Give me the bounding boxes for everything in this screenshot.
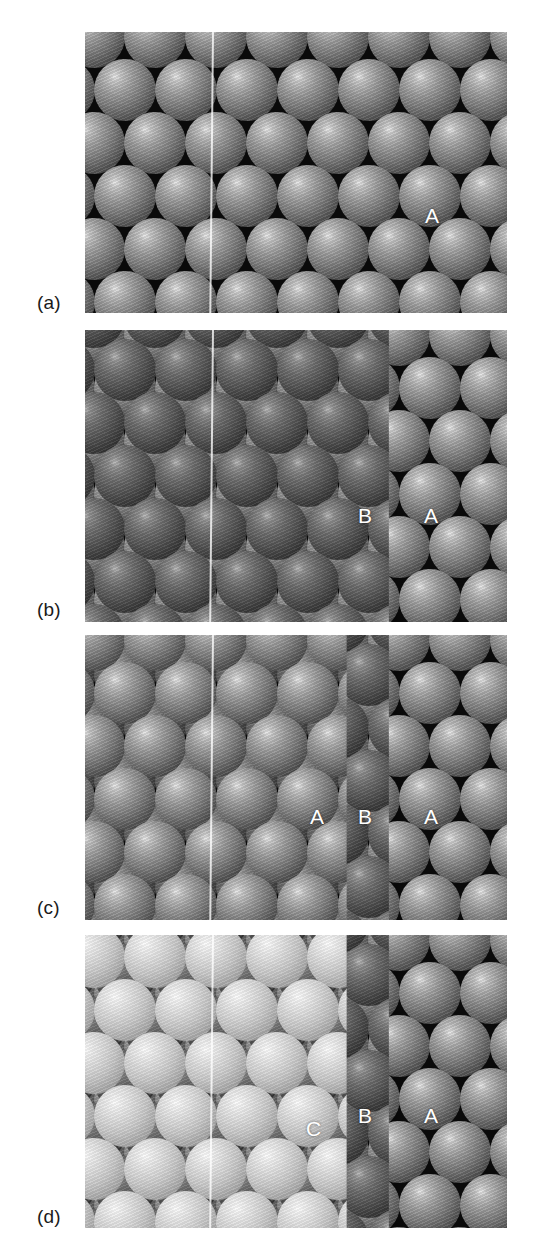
sphere <box>124 715 186 777</box>
sphere-layer-a <box>85 32 507 313</box>
sphere <box>307 392 369 454</box>
sphere <box>277 445 339 507</box>
sphere <box>246 1138 308 1200</box>
sphere <box>155 662 217 724</box>
sphere <box>155 1085 217 1147</box>
panel-label-b: (b) <box>37 600 61 619</box>
sphere <box>246 715 308 777</box>
sphere <box>399 962 461 1024</box>
panel-c <box>85 635 507 920</box>
sphere <box>399 569 461 622</box>
sphere <box>216 339 278 401</box>
sphere <box>155 551 217 613</box>
sphere <box>94 165 156 227</box>
sphere <box>124 821 186 883</box>
sphere <box>429 218 491 280</box>
sphere <box>460 662 508 724</box>
panel-d <box>85 935 507 1228</box>
sphere <box>185 1138 247 1200</box>
sphere <box>429 112 491 174</box>
sphere <box>429 821 491 883</box>
sphere <box>460 59 508 121</box>
sphere <box>155 768 217 830</box>
sphere <box>277 1085 339 1147</box>
sphere <box>368 218 430 280</box>
sphere <box>307 218 369 280</box>
sphere <box>216 768 278 830</box>
sphere <box>460 1068 508 1130</box>
sphere <box>216 1085 278 1147</box>
sphere <box>460 357 508 419</box>
sphere <box>277 339 339 401</box>
sphere <box>185 112 247 174</box>
sphere <box>216 662 278 724</box>
sphere <box>246 392 308 454</box>
sphere <box>124 392 186 454</box>
sphere <box>277 979 339 1041</box>
sphere <box>124 218 186 280</box>
sphere <box>277 768 339 830</box>
sphere <box>277 662 339 724</box>
sphere <box>94 768 156 830</box>
sphere <box>185 498 247 560</box>
sphere <box>399 357 461 419</box>
sphere <box>216 165 278 227</box>
sphere <box>429 1015 491 1077</box>
sphere <box>429 1121 491 1183</box>
sphere <box>94 339 156 401</box>
sphere <box>429 715 491 777</box>
panel-label-d: (d) <box>37 1207 61 1226</box>
sphere <box>216 979 278 1041</box>
panel-label-c: (c) <box>37 898 60 917</box>
sphere <box>399 1068 461 1130</box>
sphere <box>338 59 400 121</box>
sphere <box>94 445 156 507</box>
sphere <box>216 59 278 121</box>
sphere <box>460 165 508 227</box>
sphere <box>155 165 217 227</box>
sphere <box>277 551 339 613</box>
sphere <box>460 962 508 1024</box>
sphere <box>460 463 508 525</box>
sphere <box>94 59 156 121</box>
sphere <box>155 445 217 507</box>
sphere <box>246 821 308 883</box>
panel-b <box>85 330 507 622</box>
sphere <box>185 218 247 280</box>
sphere <box>429 410 491 472</box>
panel-label-a: (a) <box>37 293 61 312</box>
sphere <box>155 979 217 1041</box>
sphere <box>399 463 461 525</box>
sphere <box>185 392 247 454</box>
figure-canvas: A(a)BA(b)ABA(c)CBA(d) <box>0 0 541 1258</box>
sphere <box>307 112 369 174</box>
sphere <box>246 1032 308 1094</box>
sphere <box>368 112 430 174</box>
sphere <box>429 516 491 578</box>
sphere <box>399 59 461 121</box>
sphere <box>246 112 308 174</box>
sphere <box>124 498 186 560</box>
sphere <box>94 551 156 613</box>
sphere <box>94 979 156 1041</box>
sphere <box>338 165 400 227</box>
sphere <box>399 1174 461 1228</box>
sphere <box>94 1085 156 1147</box>
sphere <box>246 498 308 560</box>
sphere <box>399 662 461 724</box>
sphere <box>246 218 308 280</box>
sphere <box>216 551 278 613</box>
sphere <box>185 821 247 883</box>
sphere <box>124 1138 186 1200</box>
sphere <box>94 662 156 724</box>
sphere <box>307 498 369 560</box>
sphere <box>155 339 217 401</box>
sphere <box>155 59 217 121</box>
sphere <box>185 715 247 777</box>
sphere <box>124 112 186 174</box>
sphere <box>399 768 461 830</box>
sphere <box>216 445 278 507</box>
sphere <box>124 1032 186 1094</box>
sphere <box>185 1032 247 1094</box>
sphere <box>460 768 508 830</box>
